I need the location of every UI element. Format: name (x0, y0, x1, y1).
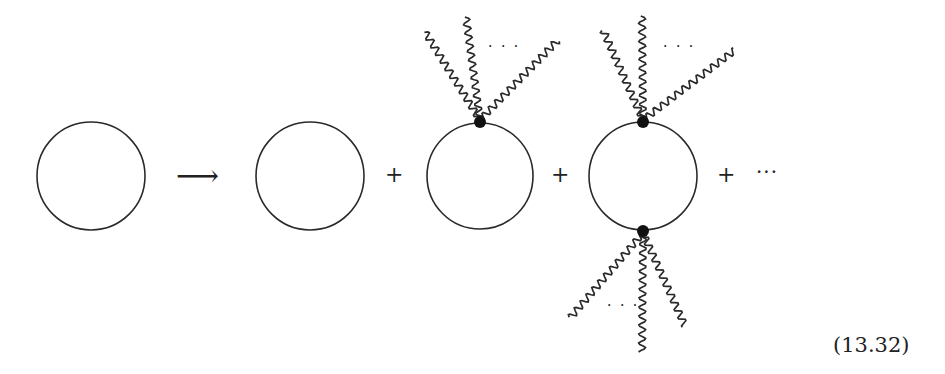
loop-two-vertex (589, 122, 697, 230)
loop-lhs (37, 122, 145, 230)
arrow-symbol: ⟶ (176, 158, 219, 193)
feynman-diagram-canvas (0, 0, 945, 374)
photon-ellipsis: · · · (488, 38, 520, 54)
equation-number: (13.32) (833, 333, 910, 357)
photon-lines (424, 16, 733, 352)
photon-ellipsis: · · · (663, 38, 695, 54)
vertex-dot (474, 116, 486, 128)
photon-ellipsis: · · · (607, 297, 639, 313)
loop-one-vertex (427, 123, 533, 229)
ellipsis: ··· (756, 160, 778, 184)
photon-line (639, 16, 646, 120)
photon-line (600, 31, 645, 121)
plus-sign: + (385, 162, 403, 187)
loop-bare (256, 122, 364, 230)
photon-line (641, 233, 686, 327)
photon-line (643, 48, 733, 122)
photon-line (639, 233, 646, 352)
plus-sign: + (717, 162, 735, 187)
photon-line (464, 17, 483, 120)
plus-sign: + (551, 162, 569, 187)
vertex-dot (637, 116, 649, 128)
vertex-dot (637, 225, 649, 237)
